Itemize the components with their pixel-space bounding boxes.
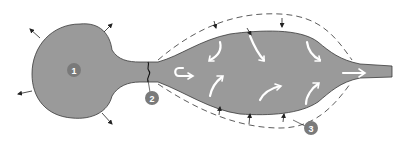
pressure-arrow-icon [249, 114, 250, 124]
marker-1-label: 1 [71, 66, 76, 76]
pressure-arrow-icon [214, 21, 216, 28]
marker-3-leader [293, 120, 305, 126]
marker-3-label: 3 [308, 124, 313, 134]
marker-1: 1 [67, 63, 81, 77]
vessel-body [32, 24, 392, 119]
pressure-arrow-icon [18, 91, 32, 94]
marker-2: 2 [145, 91, 159, 105]
pressure-arrow-icon [30, 29, 40, 38]
pressure-arrow-icon [104, 24, 112, 32]
marker-2-label: 2 [149, 94, 154, 104]
marker-3: 3 [304, 121, 318, 135]
pressure-arrow-icon [102, 113, 112, 124]
pressure-arrow-icon [283, 114, 284, 122]
flow-diagram: 1 2 3 [0, 0, 416, 142]
